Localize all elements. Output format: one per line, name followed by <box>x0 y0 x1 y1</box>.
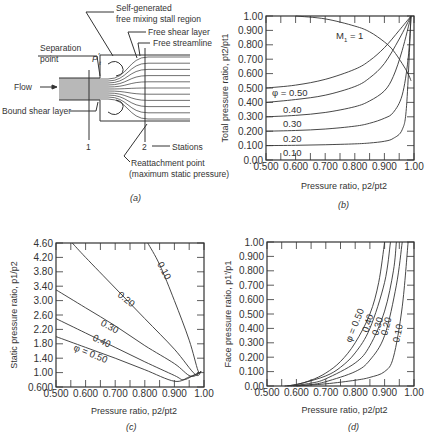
y-tick-label: 0.00 <box>244 155 264 166</box>
x-tick-label: 1.00 <box>404 387 424 398</box>
label-bound-shear-layer: Bound shear layer <box>2 106 71 116</box>
y-tick-label: 3.80 <box>34 266 54 277</box>
y-tick-label: 0.700 <box>239 280 264 291</box>
y-tick-label: 1.00 <box>244 11 264 22</box>
x-tick-label: 1.00 <box>194 388 214 399</box>
x-tick-label: 0.800 <box>132 388 157 399</box>
label-reattachment: Reattachment point <box>131 158 205 168</box>
x-tick-label: 0.900 <box>372 161 397 172</box>
streamline <box>59 91 190 94</box>
y-tick-label: 0.00 <box>245 381 265 392</box>
panel-caption: (b) <box>338 200 349 210</box>
x-axis-label: Pressure ratio, p2/pt2 <box>301 181 387 191</box>
x-tick-label: 0.800 <box>342 161 367 172</box>
label-station-2: 2 <box>142 142 147 152</box>
curve-label-0.40: 0.40 <box>91 332 112 350</box>
free-shear-leader <box>128 32 146 58</box>
curve-label-0.10: 0.10 <box>155 260 173 281</box>
streamline <box>59 76 190 85</box>
x-tick-label: 0.900 <box>162 388 187 399</box>
label-max-static-pressure: (maximum static pressure) <box>129 169 229 179</box>
label-separation-point: point <box>40 54 59 64</box>
y-tick-label: 0.600 <box>238 68 263 79</box>
y-tick-label: 0.300 <box>238 111 263 122</box>
y-tick-label: 0.200 <box>238 126 263 137</box>
panel-caption: (c) <box>126 422 137 432</box>
y-tick-label: 0.100 <box>238 140 263 151</box>
bound-shear-leader <box>70 102 98 111</box>
panel-a-labels: Self-generated free mixing stall region … <box>2 3 229 203</box>
y-tick-label: 4.20 <box>34 252 54 263</box>
y-tick-label: 1.00 <box>245 237 265 248</box>
y-axis-label: Total pressure ratio, pt2/pt1 <box>220 33 230 142</box>
flow-arrowhead <box>52 85 57 89</box>
x-tick-label: 0.700 <box>313 161 338 172</box>
label-free-mixing: free mixing stall region <box>116 14 201 24</box>
y-tick-label: 3.40 <box>34 281 54 292</box>
x-tick-label: 0.600 <box>284 387 309 398</box>
label-self-generated: Self-generated <box>116 3 172 13</box>
streamlines <box>59 57 190 119</box>
y-tick-label: 3.00 <box>34 295 54 306</box>
label-flow: Flow <box>14 82 33 92</box>
y-tick-label: 0.400 <box>238 97 263 108</box>
series-line <box>293 242 402 386</box>
chart-c-static-pressure-ratio: 0.5000.6000.7000.8000.9001.000.6001.001.… <box>9 238 214 433</box>
chart-d-face-pressure-ratio: 0.5000.6000.7000.8000.9001.000.000.1000.… <box>223 237 424 433</box>
y-tick-label: 1.00 <box>34 367 54 378</box>
x-axis-label: Pressure ratio, p2/pt2 <box>301 405 387 415</box>
chart-b-total-pressure-ratio: 0.5000.6000.7000.8000.9001.000.000.1000.… <box>220 11 424 211</box>
y-tick-label: 0.800 <box>238 39 263 50</box>
curve-label-0.30: 0.30 <box>283 118 302 129</box>
series-line <box>266 16 411 88</box>
series-line <box>285 242 385 386</box>
curve-label-0.50: φ = 0.50 <box>272 87 307 98</box>
y-tick-label: 0.900 <box>239 251 264 262</box>
y-tick-label: 0.500 <box>238 83 263 94</box>
x-tick-label: 0.900 <box>372 387 397 398</box>
curve-label-m1: M1 = 1 <box>336 30 363 43</box>
y-tick-label: 0.500 <box>239 309 264 320</box>
y-tick-label: 4.60 <box>34 238 54 249</box>
y-tick-label: 1.80 <box>34 338 54 349</box>
label-free-streamline: Free streamline <box>153 38 212 48</box>
x-tick-label: 0.700 <box>313 387 338 398</box>
curve-label-0.10: 0.10 <box>283 147 302 158</box>
x-axis-label: Pressure ratio, p2/pt2 <box>91 406 177 416</box>
panel-caption: (d) <box>348 422 359 432</box>
y-tick-label: 0.400 <box>239 323 264 334</box>
label-free-shear-layer: Free shear layer <box>148 27 210 37</box>
lower-recirculation-arrow <box>108 100 123 115</box>
y-tick-label: 0.300 <box>239 337 264 348</box>
curve-label-0.30: 0.30 <box>99 317 120 335</box>
curve-label-0.20: 0.20 <box>283 133 302 144</box>
series-line <box>288 242 391 386</box>
curve-label-0.20: 0.20 <box>116 289 137 309</box>
y-tick-label: 0.200 <box>239 352 264 363</box>
streamline <box>59 88 190 89</box>
plot-frame <box>267 242 414 386</box>
y-tick-label: 0.700 <box>238 54 263 65</box>
y-tick-label: 0.600 <box>28 382 53 393</box>
label-station-1: 1 <box>86 142 91 152</box>
caption-a: (a) <box>130 193 141 203</box>
y-tick-label: 0.600 <box>239 294 264 305</box>
series-line <box>148 243 201 373</box>
y-tick-label: 1.40 <box>34 353 54 364</box>
curve-label-0.40: 0.40 <box>283 104 302 115</box>
y-axis-label: Static pressure ratio, p1/p2 <box>9 261 19 369</box>
streamline <box>59 82 190 87</box>
streamline <box>59 97 190 113</box>
label-separation: Separation <box>40 43 81 53</box>
label-stations: Stations <box>172 142 203 152</box>
free-streamline-leader <box>138 43 150 56</box>
y-tick-label: 0.800 <box>239 265 264 276</box>
x-tick-label: 0.800 <box>343 387 368 398</box>
y-tick-label: 0.100 <box>239 366 264 377</box>
plot-frame <box>56 243 204 387</box>
y-tick-label: 2.20 <box>34 324 54 335</box>
y-tick-label: 2.60 <box>34 310 54 321</box>
y-tick-label: 0.900 <box>238 25 263 36</box>
x-tick-label: 1.00 <box>404 161 424 172</box>
curve-label-0.10: 0.10 <box>390 323 405 343</box>
